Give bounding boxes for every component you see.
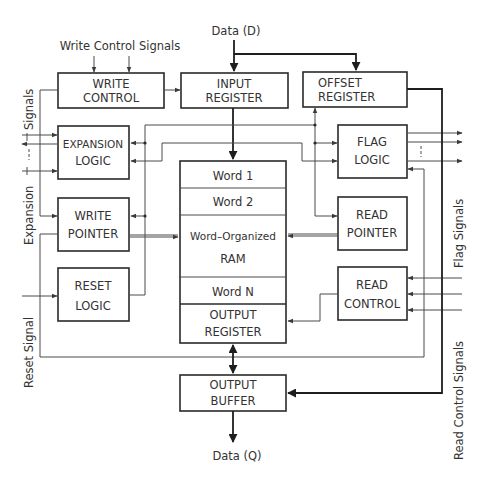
read-control-signal-lines bbox=[408, 278, 462, 310]
svg-text:OUTPUT: OUTPUT bbox=[210, 378, 258, 392]
svg-text:CONTROL: CONTROL bbox=[344, 297, 401, 311]
svg-text:OFFSET: OFFSET bbox=[318, 76, 363, 90]
data-in-label: Data (D) bbox=[212, 24, 261, 38]
svg-text:POINTER: POINTER bbox=[68, 227, 118, 241]
write-pointer-block: WRITE POINTER bbox=[58, 198, 129, 251]
ram-word-2: Word 2 bbox=[213, 195, 254, 209]
write-control-block: WRITE CONTROL bbox=[58, 73, 164, 108]
svg-text:FLAG: FLAG bbox=[357, 135, 387, 149]
read-pointer-to-ram bbox=[288, 234, 338, 236]
svg-text:LOGIC: LOGIC bbox=[75, 299, 110, 313]
input-register-block: INPUT REGISTER bbox=[181, 73, 288, 108]
ram-word-n: Word N bbox=[212, 285, 254, 299]
flag-signal-lines bbox=[407, 133, 462, 161]
flag-signals-label: Flag Signals bbox=[452, 199, 466, 268]
ram-block: Word 1 Word 2 Word–Organized RAM Word N … bbox=[180, 161, 286, 343]
svg-text:INPUT: INPUT bbox=[217, 77, 252, 91]
svg-text:BUFFER: BUFFER bbox=[211, 394, 256, 408]
svg-text:READ: READ bbox=[356, 278, 388, 292]
write-control-signal-arrows bbox=[94, 56, 129, 72]
expansion-flag-link bbox=[131, 143, 337, 161]
write-control-to-write-pointer bbox=[40, 90, 58, 216]
data-out-label: Data (Q) bbox=[212, 449, 261, 463]
svg-text:LOGIC: LOGIC bbox=[354, 153, 389, 167]
svg-text:EXPANSION: EXPANSION bbox=[63, 138, 123, 150]
fifo-block-diagram: Data (D) Write Control Signals Data (Q) … bbox=[0, 0, 484, 484]
data-in-bus bbox=[234, 40, 356, 71]
read-control-signals-label: Read Control Signals bbox=[452, 341, 466, 460]
output-register-label-2: REGISTER bbox=[204, 325, 261, 339]
ram-title-2: RAM bbox=[220, 252, 245, 266]
svg-text:REGISTER: REGISTER bbox=[318, 90, 375, 104]
read-control-to-output-register bbox=[288, 294, 338, 321]
read-control-block: READ CONTROL bbox=[338, 267, 407, 320]
offset-register-block: OFFSET REGISTER bbox=[303, 72, 407, 107]
svg-text:POINTER: POINTER bbox=[347, 226, 397, 240]
output-register-label: OUTPUT bbox=[210, 308, 258, 322]
svg-text:REGISTER: REGISTER bbox=[205, 91, 262, 105]
expansion-label: Expansion bbox=[22, 186, 36, 245]
svg-text:RESET: RESET bbox=[75, 279, 113, 293]
svg-text:READ: READ bbox=[356, 208, 388, 222]
write-control-signals-label: Write Control Signals bbox=[60, 39, 181, 53]
ram-word-1: Word 1 bbox=[213, 169, 254, 183]
ram-title: Word–Organized bbox=[190, 230, 276, 242]
reset-logic-block: RESET LOGIC bbox=[58, 268, 129, 321]
reset-signal-label: Reset Signal bbox=[22, 317, 36, 388]
signals-label: Signals bbox=[22, 89, 36, 130]
read-pointer-block: READ POINTER bbox=[338, 197, 407, 250]
svg-text:WRITE: WRITE bbox=[92, 77, 129, 91]
expansion-logic-block: EXPANSION LOGIC bbox=[58, 126, 129, 179]
flag-logic-block: FLAG LOGIC bbox=[338, 125, 407, 178]
write-pointer-to-ram bbox=[129, 235, 178, 237]
svg-text:WRITE: WRITE bbox=[74, 209, 111, 223]
output-buffer-block: OUTPUT BUFFER bbox=[180, 375, 286, 411]
svg-text:LOGIC: LOGIC bbox=[75, 154, 110, 168]
svg-text:CONTROL: CONTROL bbox=[83, 91, 140, 105]
